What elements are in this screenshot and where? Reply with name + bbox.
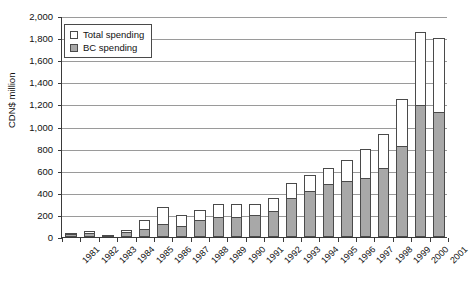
bar-group [341,16,352,237]
y-axis-tick [58,61,62,62]
bar-group [323,16,334,237]
legend-label: Total spending [83,30,144,40]
y-axis-tick-label: 1,200 [0,100,53,110]
y-axis-tick [58,83,62,84]
bar-group [194,16,205,237]
white-square-icon [70,31,78,39]
x-axis-tick [319,238,320,242]
bar-group [396,16,407,237]
x-axis-tick [62,238,63,242]
bar-group [176,16,187,237]
x-axis-tick-label: 2001 [449,245,469,266]
bar-bc-spending [378,168,389,237]
legend-label: BC spending [83,43,137,53]
x-axis-tick-label: 1983 [118,245,139,266]
x-axis-tick [430,238,431,242]
x-axis-tick [117,238,118,242]
y-axis-tick [58,39,62,40]
y-axis-tick-label: 1,800 [0,34,53,44]
x-axis-tick-label: 1996 [357,245,378,266]
y-axis-tick [58,105,62,106]
x-axis-tick [136,238,137,242]
x-axis-tick [209,238,210,242]
x-axis-tick-label: 1991 [265,245,286,266]
x-axis-tick-label: 1994 [320,245,341,266]
x-axis-tick [301,238,302,242]
x-axis-tick [448,238,449,242]
y-axis-tick [58,194,62,195]
bar-bc-spending [157,224,168,237]
bar-group [378,16,389,237]
x-axis-tick-label: 1989 [228,245,249,266]
bar-group [360,16,371,237]
x-axis-tick [338,238,339,242]
bar-bc-spending [102,235,113,237]
bar-bc-spending [323,184,334,237]
y-axis-tick-label: 1,400 [0,78,53,88]
x-axis-tick-label: 1981 [81,245,102,266]
x-axis-tick-label: 1999 [412,245,433,266]
x-axis-tick [154,238,155,242]
x-axis-tick-label: 1988 [210,245,231,266]
bar-group [433,16,444,237]
bar-bc-spending [249,215,260,237]
bar-bc-spending [396,146,407,237]
y-axis-tick-label: 0 [0,233,53,243]
bar-group [286,16,297,237]
bar-bc-spending [286,198,297,237]
x-axis-tick-label: 2000 [430,245,451,266]
bar-group [304,16,315,237]
x-axis-tick [393,238,394,242]
x-axis-tick [80,238,81,242]
gray-square-icon [70,44,78,52]
bar-bc-spending [415,105,426,237]
y-axis-tick-label: 400 [0,189,53,199]
x-axis-tick-label: 1984 [136,245,157,266]
bar-bc-spending [84,233,95,237]
legend-item-total-spending: Total spending [70,28,144,41]
y-axis-tick [58,172,62,173]
bar-group [157,16,168,237]
x-axis-tick-label: 1997 [375,245,396,266]
x-axis-tick [227,238,228,242]
bar-bc-spending [176,226,187,237]
chart-legend: Total spending BC spending [64,24,152,58]
y-axis-tick [58,150,62,151]
y-axis-tick [58,17,62,18]
bar-group [249,16,260,237]
x-axis-tick-label: 1985 [155,245,176,266]
y-axis-tick-label: 600 [0,167,53,177]
bar-group [415,16,426,237]
bar-bc-spending [304,191,315,237]
x-axis-tick-label: 1987 [191,245,212,266]
bar-group [231,16,242,237]
bar-bc-spending [139,229,150,237]
x-axis-tick-label: 1990 [246,245,267,266]
x-axis-tick-label: 1995 [338,245,359,266]
bar-bc-spending [213,217,224,237]
legend-item-bc-spending: BC spending [70,41,144,54]
x-axis-tick-label: 1998 [394,245,415,266]
x-axis-tick [191,238,192,242]
x-axis-tick-label: 1982 [99,245,120,266]
bar-bc-spending [433,112,444,237]
x-axis-tick-label: 1986 [173,245,194,266]
y-axis-tick-label: 2,000 [0,12,53,22]
bar-bc-spending [121,232,132,237]
x-axis-tick [99,238,100,242]
bar-bc-spending [194,220,205,237]
x-axis-tick [283,238,284,242]
bar-bc-spending [360,178,371,237]
y-axis-tick-label: 800 [0,145,53,155]
y-axis-tick [58,128,62,129]
bar-bc-spending [268,211,279,237]
x-axis-tick [411,238,412,242]
y-axis-tick-label: 1,000 [0,123,53,133]
y-axis-tick-label: 200 [0,211,53,221]
x-axis-tick [172,238,173,242]
x-axis-tick [374,238,375,242]
bar-bc-spending [65,234,76,237]
x-axis-tick-label: 1993 [302,245,323,266]
x-axis-tick [264,238,265,242]
bar-group [268,16,279,237]
